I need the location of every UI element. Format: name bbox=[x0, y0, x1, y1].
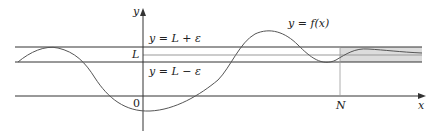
origin-label: 0 bbox=[133, 98, 140, 109]
function-curve bbox=[18, 31, 422, 111]
L-label: L bbox=[132, 49, 139, 60]
x-axis-label: x bbox=[418, 100, 424, 111]
diagram-canvas bbox=[0, 0, 437, 138]
y-axis-label: y bbox=[133, 6, 139, 17]
upper-line-label: y = L + ε bbox=[149, 33, 201, 44]
function-label: y = f(x) bbox=[288, 18, 329, 29]
epsilon-limit-diagram: y x 0 y = f(x) y = L + ε y = L − ε L N bbox=[0, 0, 437, 138]
lower-line-label: y = L − ε bbox=[149, 66, 201, 77]
N-label: N bbox=[336, 100, 346, 111]
y-axis-arrow-icon bbox=[140, 8, 146, 16]
